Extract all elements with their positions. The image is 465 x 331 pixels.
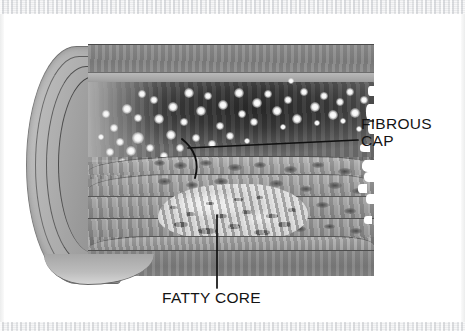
label-fibrous-cap: FIBROUSCAP (361, 116, 432, 149)
fatty-core-fleck (254, 230, 270, 235)
cell-nucleus (158, 178, 171, 185)
lumen-speck (244, 138, 250, 144)
lumen-speck (218, 100, 228, 110)
cell-nucleus (338, 168, 352, 175)
scan-noise-band-right (461, 14, 465, 322)
label-fibrous-cap-line1: FIBROUS (361, 115, 432, 132)
lumen-speck (216, 122, 224, 130)
cell-nucleus (174, 162, 187, 169)
lumen-speck (150, 96, 158, 104)
cell-nucleus (350, 228, 362, 234)
fatty-core-fleck (278, 222, 291, 227)
lumen-speck (320, 92, 328, 100)
lumen-speck (288, 78, 294, 84)
lumen-speck (264, 90, 272, 98)
artery-cross-section-illustration (26, 40, 374, 288)
torn-edge-notch (364, 172, 374, 182)
lumen-speck (122, 104, 132, 114)
outer-wall-band (88, 44, 374, 75)
lumen-speck (280, 124, 286, 130)
cell-nucleus (154, 160, 165, 166)
fatty-core-fleck (242, 210, 252, 214)
vessel-underside (44, 254, 154, 285)
lumen-speck (126, 146, 136, 156)
lumen-speck (146, 144, 154, 152)
fatty-core-fleck (198, 228, 216, 234)
cell-nucleus (254, 162, 266, 168)
lumen-speck (238, 110, 246, 118)
fatty-core-fleck (216, 214, 227, 218)
cell-nucleus (312, 162, 324, 168)
fatty-core-fleck (206, 202, 214, 205)
lumen-speck (250, 118, 258, 126)
lumen-speck (176, 144, 184, 152)
lumen-speck (300, 88, 308, 96)
torn-edge-notch (368, 86, 374, 96)
lumen-speck (284, 96, 292, 104)
scan-noise-band-left (0, 14, 4, 322)
fatty-core-fleck (256, 196, 263, 199)
lumen-speck (184, 88, 194, 98)
lumen-speck (208, 140, 216, 148)
fatty-core-fleck (170, 206, 177, 209)
lumen-speck (226, 132, 234, 140)
cell-nucleus (200, 160, 212, 166)
label-fatty-core: FATTY CORE (162, 290, 261, 307)
cell-nucleus (284, 166, 297, 173)
lumen-speck (310, 102, 320, 112)
lumen-speck (168, 102, 178, 112)
figure-canvas: FIBROUSCAP FATTY CORE (0, 0, 465, 331)
lumen-speck (346, 88, 354, 96)
scan-noise-band-top (0, 0, 465, 14)
lumen-speck (102, 110, 110, 118)
torn-edge-notch (362, 160, 374, 172)
cell-nucleus (324, 224, 335, 229)
lumen-speck (252, 98, 262, 108)
lumen-speck (272, 106, 282, 116)
lumen-speck (314, 120, 320, 126)
cell-nucleus (316, 202, 329, 208)
lumen-speck (132, 132, 144, 144)
lumen-speck (180, 118, 188, 126)
lumen-speck (134, 114, 142, 122)
lumen-speck (116, 138, 124, 146)
fatty-core-fleck (228, 224, 240, 229)
fatty-core-region (158, 184, 308, 242)
cell-nucleus (300, 186, 312, 192)
cell-nucleus (228, 164, 242, 171)
torn-edge-notch (358, 184, 367, 193)
lumen-speck (154, 114, 164, 124)
lumen-speck (292, 114, 302, 124)
lumen-speck (360, 96, 368, 104)
cell-nucleus (344, 208, 356, 214)
fatty-core-fleck (288, 208, 296, 212)
lumen-speck (204, 92, 212, 100)
lumen-speck (340, 118, 346, 124)
lumen-speck (192, 134, 200, 142)
lumen-speck (138, 90, 146, 98)
lumen-speck (110, 124, 118, 132)
fatty-core-fleck (266, 214, 278, 218)
lumen-speck (328, 110, 338, 120)
lumen-speck (98, 134, 104, 140)
plaque-slab (88, 44, 374, 276)
torn-edge-notch (364, 216, 372, 224)
scan-noise-band-bottom (0, 322, 465, 331)
fatty-core-fleck (174, 222, 188, 227)
lumen-speck (196, 106, 206, 116)
torn-edge-notch (366, 194, 374, 204)
fatty-core-fleck (234, 198, 243, 201)
lumen-speck (234, 88, 244, 98)
label-fibrous-cap-line2: CAP (361, 132, 394, 149)
fatty-core-fleck (186, 212, 195, 216)
cell-nucleus (328, 182, 342, 189)
lumen-speck (166, 130, 176, 140)
lumen-speck (106, 148, 114, 156)
lumen-speck (350, 108, 360, 118)
lumen-speck (336, 98, 344, 106)
